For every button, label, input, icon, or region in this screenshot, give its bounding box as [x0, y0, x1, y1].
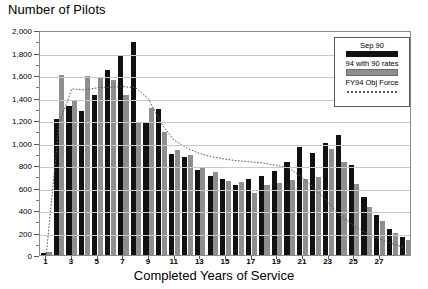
y-axis-tick-label: 1,400	[12, 94, 32, 103]
y-axis-tick-label: 400	[19, 207, 32, 216]
bar-sep-90-year-19	[272, 171, 277, 255]
y-axis-tick-label: 600	[19, 184, 32, 193]
y-axis-tick-label: 800	[19, 162, 32, 171]
bar-sep-90-year-20	[284, 162, 289, 255]
bar-sep-90-year-22	[310, 153, 315, 255]
gridline	[40, 190, 410, 191]
bar-sep-90-year-8	[131, 42, 136, 255]
gridline	[40, 145, 410, 146]
y-axis-tick-mark	[34, 256, 39, 257]
bar-94-with-90-rates-year-13	[200, 167, 205, 255]
bar-sep-90-year-29	[400, 237, 405, 255]
bar-sep-90-year-5	[92, 95, 97, 255]
y-axis-minor-tick-mark	[36, 87, 39, 88]
y-axis-tick-mark	[34, 121, 39, 122]
bar-sep-90-year-28	[387, 229, 392, 255]
x-axis-tick-mark	[174, 256, 175, 259]
y-axis-minor-tick-mark	[36, 42, 39, 43]
bar-94-with-90-rates-year-10	[162, 132, 167, 255]
bar-94-with-90-rates-year-25	[354, 184, 359, 255]
legend-swatch-dots	[347, 88, 397, 93]
x-axis-tick-mark	[225, 256, 226, 259]
y-axis-minor-tick-mark	[36, 110, 39, 111]
y-axis-minor-tick-mark	[36, 155, 39, 156]
bar-94-with-90-rates-year-12	[188, 155, 193, 255]
bar-94-with-90-rates-year-15	[226, 181, 231, 255]
bar-94-with-90-rates-year-11	[175, 150, 180, 255]
chart-title: Number of Pilots	[8, 2, 106, 17]
bar-sep-90-year-11	[169, 154, 174, 255]
y-axis-minor-tick-mark	[36, 222, 39, 223]
bar-94-with-90-rates-year-4	[85, 76, 90, 255]
bar-94-with-90-rates-year-29	[406, 240, 411, 255]
bar-94-with-90-rates-year-26	[367, 207, 372, 255]
legend-swatch-gray	[346, 69, 398, 76]
gridline	[40, 235, 410, 236]
legend-label: 94 with 90 rates	[337, 59, 407, 68]
y-axis-minor-tick-mark	[36, 132, 39, 133]
bar-94-with-90-rates-year-17	[252, 193, 257, 255]
y-axis-tick-mark	[34, 189, 39, 190]
bar-sep-90-year-4	[79, 111, 84, 255]
x-axis-tick-mark	[251, 256, 252, 259]
y-axis-tick-mark	[34, 234, 39, 235]
gridline	[40, 122, 410, 123]
y-axis-labels: 2,0001,8001,6001,4001,2001,0008006004002…	[0, 31, 36, 256]
bar-94-with-90-rates-year-19	[277, 183, 282, 255]
bar-sep-90-year-26	[361, 197, 366, 256]
y-axis-tick-label: 1,200	[12, 117, 32, 126]
legend-item-sep-90: Sep 90	[337, 41, 407, 57]
y-axis-tick-mark	[34, 166, 39, 167]
y-axis-minor-tick-mark	[36, 65, 39, 66]
x-axis-tick-mark	[379, 256, 380, 259]
x-axis-tick-mark	[122, 256, 123, 259]
bar-94-with-90-rates-year-1	[46, 252, 51, 255]
legend-swatch-black	[346, 51, 398, 57]
bar-94-with-90-rates-year-3	[72, 101, 77, 255]
y-axis-tick-label: 1,800	[12, 49, 32, 58]
bar-94-with-90-rates-year-7	[123, 95, 128, 255]
y-axis-tick-label: 1,000	[12, 139, 32, 148]
y-axis-tick-mark	[34, 31, 39, 32]
bar-94-with-90-rates-year-28	[393, 233, 398, 255]
y-axis-tick-mark	[34, 144, 39, 145]
bar-sep-90-year-21	[297, 147, 302, 255]
x-axis-tick-mark	[328, 256, 329, 259]
legend-item-94-with-90-rates: 94 with 90 rates	[337, 59, 407, 76]
bar-sep-90-year-24	[336, 135, 341, 255]
bar-94-with-90-rates-year-24	[341, 162, 346, 255]
bar-94-with-90-rates-year-27	[380, 221, 385, 255]
x-axis-tick-mark	[45, 256, 46, 259]
chart-container: Number of Pilots 2,0001,8001,6001,4001,2…	[0, 0, 428, 289]
bar-sep-90-year-7	[118, 55, 123, 255]
x-axis-title: Completed Years of Service	[0, 268, 428, 283]
legend-item-fy94-obj-force: FY94 Obj Force	[337, 78, 407, 93]
y-axis-tick-mark	[34, 211, 39, 212]
bar-sep-90-year-1	[41, 253, 46, 255]
bar-94-with-90-rates-year-2	[59, 75, 64, 255]
bar-sep-90-year-6	[105, 70, 110, 255]
x-axis-tick-mark	[276, 256, 277, 259]
gridline	[40, 167, 410, 168]
bar-94-with-90-rates-year-23	[329, 149, 334, 255]
chart-legend: Sep 9094 with 90 ratesFY94 Obj Force	[334, 37, 410, 107]
y-axis-minor-tick-mark	[36, 200, 39, 201]
bar-94-with-90-rates-year-18	[264, 185, 269, 255]
x-axis-tick-mark	[302, 256, 303, 259]
bar-sep-90-year-14	[208, 176, 213, 255]
y-axis-minor-tick-mark	[36, 245, 39, 246]
bar-sep-90-year-18	[259, 176, 264, 255]
y-axis-tick-mark	[34, 99, 39, 100]
bar-94-with-90-rates-year-14	[213, 172, 218, 255]
y-axis-tick-mark	[34, 76, 39, 77]
x-axis-tick-mark	[353, 256, 354, 259]
bar-sep-90-year-3	[66, 106, 71, 255]
legend-label: Sep 90	[337, 41, 407, 50]
y-axis-minor-tick-mark	[36, 177, 39, 178]
legend-label: FY94 Obj Force	[337, 78, 407, 87]
bar-sep-90-year-23	[323, 143, 328, 256]
gridline	[40, 212, 410, 213]
x-axis-tick-mark	[97, 256, 98, 259]
y-axis-tick-label: 200	[19, 229, 32, 238]
y-axis-tick-label: 0	[28, 252, 32, 261]
